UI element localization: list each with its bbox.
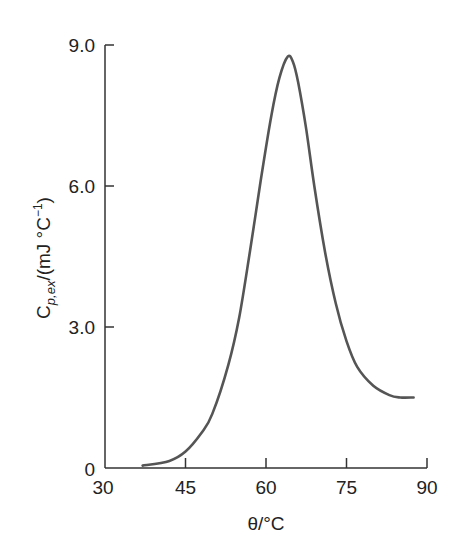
y-label-sup: −1 <box>31 203 45 217</box>
y-label-main: C <box>33 305 54 319</box>
chart: 03.06.09.0 3045607590 θ/°C Cp,ex/(mJ °C−… <box>0 0 461 560</box>
y-label-close: ) <box>33 197 54 203</box>
x-tick-label: 75 <box>336 477 357 498</box>
y-tick-label: 9.0 <box>69 35 95 56</box>
x-axis-label: θ/°C <box>247 513 284 534</box>
y-axis-label: Cp,ex/(mJ °C−1) <box>31 197 58 319</box>
x-ticks: 3045607590 <box>92 458 437 498</box>
y-ticks: 03.06.09.0 <box>69 35 114 480</box>
x-tick-label: 45 <box>175 477 196 498</box>
x-tick-label: 30 <box>92 477 113 498</box>
y-label-sub: p,ex <box>43 280 58 306</box>
data-curve <box>143 56 414 466</box>
y-tick-label: 3.0 <box>69 317 95 338</box>
x-tick-label: 90 <box>416 477 437 498</box>
x-tick-label: 60 <box>255 477 276 498</box>
y-label-rest: /(mJ °C <box>33 217 54 281</box>
y-tick-label: 6.0 <box>69 176 95 197</box>
axes: 03.06.09.0 3045607590 <box>69 35 438 498</box>
